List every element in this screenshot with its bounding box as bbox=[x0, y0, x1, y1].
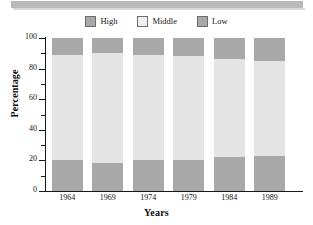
y-tick-mark bbox=[39, 130, 45, 131]
legend-swatch-icon bbox=[85, 16, 96, 27]
bar-segment-low[interactable] bbox=[52, 160, 83, 191]
y-tick-mark-minor bbox=[41, 145, 45, 146]
legend-item-middle[interactable]: Middle bbox=[137, 16, 177, 27]
bar-segment-low[interactable] bbox=[133, 160, 164, 191]
bar-segment-high[interactable] bbox=[173, 38, 204, 56]
legend-label: High bbox=[100, 17, 117, 26]
y-tick-mark bbox=[39, 191, 45, 192]
bar-segment-high[interactable] bbox=[133, 38, 164, 55]
bar-segment-middle[interactable] bbox=[214, 59, 245, 157]
bar-stack[interactable] bbox=[214, 38, 245, 191]
plot-area bbox=[47, 38, 290, 191]
bar-stack[interactable] bbox=[254, 38, 285, 191]
y-tick-label: 0 bbox=[1, 186, 37, 194]
bar-segment-low[interactable] bbox=[92, 163, 123, 191]
x-axis-title: Years bbox=[0, 207, 313, 218]
bar-segment-low[interactable] bbox=[254, 156, 285, 191]
x-tick-label: 1969 bbox=[88, 194, 129, 202]
bar-segment-high[interactable] bbox=[214, 38, 245, 59]
bar-stack[interactable] bbox=[92, 38, 123, 191]
y-tick-mark bbox=[39, 160, 45, 161]
legend-swatch-icon bbox=[197, 16, 208, 27]
y-tick-mark bbox=[39, 38, 45, 39]
legend-item-low[interactable]: Low bbox=[197, 16, 228, 27]
y-tick-label-wrap: 0 bbox=[0, 186, 37, 196]
y-tick-label: 20 bbox=[1, 155, 37, 163]
bar-stack[interactable] bbox=[173, 38, 204, 191]
bar-stack[interactable] bbox=[133, 38, 164, 191]
x-tick-label: 1979 bbox=[169, 194, 210, 202]
legend-item-high[interactable]: High bbox=[85, 16, 117, 27]
x-axis-line bbox=[39, 191, 303, 192]
bar-segment-high[interactable] bbox=[92, 38, 123, 53]
chart-legend: HighMiddleLow bbox=[0, 12, 313, 30]
bar-segment-middle[interactable] bbox=[133, 55, 164, 161]
bar-segment-low[interactable] bbox=[214, 157, 245, 191]
y-tick-label-wrap: 100 bbox=[0, 33, 37, 43]
bar-segment-high[interactable] bbox=[52, 38, 83, 55]
x-tick-label: 1964 bbox=[47, 194, 88, 202]
header-decoration-strip-shadow bbox=[13, 8, 305, 10]
header-decoration-strip bbox=[11, 1, 303, 8]
bar-segment-middle[interactable] bbox=[92, 53, 123, 163]
y-axis-line bbox=[45, 37, 46, 192]
y-tick-mark bbox=[39, 99, 45, 100]
bar-segment-middle[interactable] bbox=[52, 55, 83, 161]
y-tick-mark bbox=[39, 69, 45, 70]
y-tick-mark-minor bbox=[41, 176, 45, 177]
y-tick-label: 100 bbox=[1, 33, 37, 41]
y-tick-mark-minor bbox=[41, 53, 45, 54]
bar-segment-middle[interactable] bbox=[173, 56, 204, 160]
x-tick-label: 1984 bbox=[209, 194, 250, 202]
x-tick-label: 1974 bbox=[128, 194, 169, 202]
y-tick-label-wrap: 20 bbox=[0, 155, 37, 165]
bar-stack[interactable] bbox=[52, 38, 83, 191]
legend-label: Low bbox=[212, 17, 228, 26]
y-tick-mark-minor bbox=[41, 84, 45, 85]
y-axis-title: Percentage bbox=[9, 49, 20, 139]
x-tick-label: 1989 bbox=[250, 194, 291, 202]
y-tick-mark-minor bbox=[41, 115, 45, 116]
legend-label: Middle bbox=[152, 17, 177, 26]
bar-segment-middle[interactable] bbox=[254, 61, 285, 156]
bar-segment-high[interactable] bbox=[254, 38, 285, 61]
legend-swatch-icon bbox=[137, 16, 148, 27]
bar-segment-low[interactable] bbox=[173, 160, 204, 191]
